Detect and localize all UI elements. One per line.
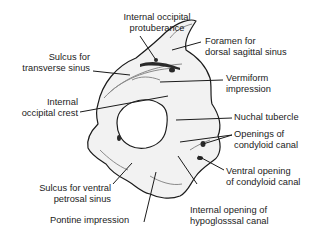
label-line: Internal bbox=[0, 97, 78, 108]
label-line: protuberance bbox=[110, 23, 204, 34]
label-internal-opening-hypoglossal-canal: Internal opening of hypoglosssal canal bbox=[190, 205, 269, 227]
label-line: Pontine impression bbox=[50, 215, 129, 226]
label-line: Internal occipital bbox=[110, 12, 204, 23]
label-line: Foramen for bbox=[205, 36, 287, 47]
label-nuchal-tubercle: Nuchal tubercle bbox=[234, 112, 299, 123]
label-line: petrosal sinus bbox=[0, 194, 111, 205]
label-line: Sulcus for bbox=[0, 52, 90, 63]
label-ventral-opening-condyloid-canal: Ventral opening of condyloid canal bbox=[226, 166, 300, 188]
label-line: Openings of bbox=[234, 129, 298, 140]
label-line: condyloid canal bbox=[234, 140, 298, 151]
label-line: Ventral opening bbox=[226, 166, 300, 177]
label-line: dorsal sagittal sinus bbox=[205, 47, 287, 58]
label-openings-condyloid-canal: Openings of condyloid canal bbox=[234, 129, 298, 151]
label-sulcus-ventral-petrosal-sinus: Sulcus for ventral petrosal sinus bbox=[0, 183, 111, 205]
anatomy-diagram: Internal occipital protuberance Foramen … bbox=[0, 0, 316, 236]
bone-shape bbox=[88, 20, 220, 198]
label-line: Vermiform bbox=[226, 73, 271, 84]
label-pontine-impression: Pontine impression bbox=[50, 215, 129, 226]
label-sulcus-transverse-sinus: Sulcus for transverse sinus bbox=[0, 52, 90, 74]
label-vermiform-impression: Vermiform impression bbox=[226, 73, 271, 95]
label-line: occipital crest bbox=[0, 108, 78, 119]
label-line: hypoglosssal canal bbox=[190, 216, 269, 227]
label-foramen-dorsal-sagittal-sinus: Foramen for dorsal sagittal sinus bbox=[205, 36, 287, 58]
label-line: Internal opening of bbox=[190, 205, 269, 216]
label-line: impression bbox=[226, 84, 271, 95]
label-internal-occipital-protuberance: Internal occipital protuberance bbox=[110, 12, 204, 34]
label-internal-occipital-crest: Internal occipital crest bbox=[0, 97, 78, 119]
label-line: Sulcus for ventral bbox=[0, 183, 111, 194]
label-line: Nuchal tubercle bbox=[234, 112, 299, 123]
label-line: of condyloid canal bbox=[226, 177, 300, 188]
label-line: transverse sinus bbox=[0, 63, 90, 74]
